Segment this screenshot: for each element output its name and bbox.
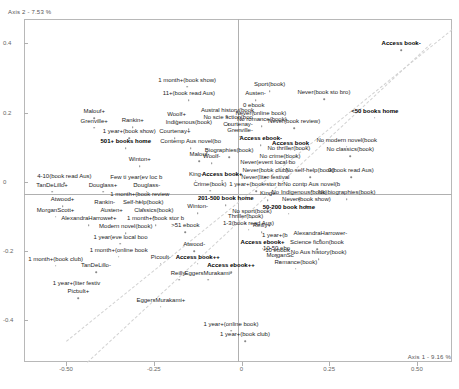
data-point-marker bbox=[120, 243, 122, 245]
data-point-label: Austen+ bbox=[101, 207, 123, 213]
data-point-marker bbox=[207, 279, 209, 281]
y-tick-label: 0 bbox=[3, 179, 6, 185]
y-tick-mark bbox=[24, 113, 28, 114]
data-point-label: MorganScott+ bbox=[37, 207, 75, 213]
data-point-marker bbox=[88, 224, 90, 226]
data-point-marker bbox=[55, 265, 57, 267]
data-point-label: No biographies(book) bbox=[318, 189, 375, 195]
data-point-label: Never(book sto bro) bbox=[297, 89, 350, 95]
data-point-label: 1 month+(book stor b bbox=[127, 215, 184, 221]
x-tick-label: -0.25 bbox=[147, 366, 161, 372]
data-point-label: Austen- bbox=[245, 90, 266, 96]
data-point-marker bbox=[276, 257, 278, 259]
data-point-label: Douglass+ bbox=[89, 182, 118, 188]
data-point-marker bbox=[261, 126, 263, 128]
data-point-label: Crime(book) bbox=[193, 181, 226, 187]
data-point-label: Woolf+ bbox=[167, 111, 186, 117]
data-point-label: >51 ebook bbox=[171, 222, 199, 228]
data-point-label: EggersMurakami- bbox=[184, 270, 231, 276]
data-point-label: 1 year+(book club) bbox=[220, 331, 270, 337]
data-point-label: 1 month+(book show) bbox=[158, 77, 216, 83]
data-point-label: Douglass- bbox=[133, 182, 160, 188]
data-point-marker bbox=[155, 224, 157, 226]
data-point-label: Atwood- bbox=[183, 241, 205, 247]
data-point-label: Access book++ bbox=[176, 254, 220, 260]
data-point-label: 1 year+(book stor br bbox=[229, 181, 283, 187]
data-point-marker bbox=[295, 268, 297, 270]
data-point-label: Atwood+ bbox=[51, 196, 75, 202]
data-point-marker bbox=[346, 198, 348, 200]
data-point-marker bbox=[293, 127, 295, 129]
data-point-marker bbox=[225, 204, 227, 206]
data-point-label: 1 month+(online book bbox=[90, 247, 148, 253]
y-tick-label: 0.4 bbox=[3, 40, 11, 46]
data-point-label: Thriller(book) bbox=[228, 213, 263, 219]
y-tick-label: -0.2 bbox=[3, 248, 13, 254]
y-tick-mark bbox=[24, 182, 28, 183]
y-tick-mark bbox=[24, 43, 28, 44]
data-point-label: Rankin+ bbox=[122, 117, 144, 123]
data-point-marker bbox=[178, 279, 180, 281]
data-point-label: Winton+ bbox=[129, 156, 151, 162]
data-point-label: 1 year+(b bbox=[262, 232, 288, 238]
data-point-label: Picoult- bbox=[151, 254, 171, 260]
data-point-label: Indigenous(book) bbox=[166, 119, 212, 125]
x-tick-label: -0.50 bbox=[59, 366, 73, 372]
data-point-label: AlexandraHarrower- bbox=[294, 230, 348, 236]
data-point-label: No crime(book) bbox=[260, 153, 301, 159]
data-point-marker bbox=[197, 263, 199, 265]
data-point-label: EggersMurakami+ bbox=[136, 297, 185, 303]
data-point-label: Never(liter festival bbox=[241, 174, 289, 180]
data-point-label: 201-500 book home bbox=[198, 195, 254, 201]
data-point-label: Never(event local bo bbox=[240, 159, 295, 165]
data-point-marker bbox=[267, 199, 269, 201]
data-point-label: Winton- bbox=[187, 203, 208, 209]
data-point-marker bbox=[186, 86, 188, 88]
vertical-axis-line bbox=[238, 19, 239, 362]
data-point-label: 50-200 book home bbox=[263, 204, 315, 210]
data-point-label: Rankin- bbox=[94, 199, 115, 205]
data-point-label: Romance(book) bbox=[275, 259, 318, 265]
data-point-marker bbox=[199, 160, 201, 162]
data-point-marker bbox=[160, 263, 162, 265]
data-point-marker bbox=[209, 190, 211, 192]
data-point-label: No modern novel(book bbox=[316, 137, 377, 143]
data-point-label: Science fiction(book bbox=[290, 239, 344, 245]
x-tick-label: 0.25 bbox=[323, 366, 335, 372]
data-point-label: Never(online book) bbox=[235, 110, 286, 116]
data-point-label: No self-help(book) bbox=[285, 167, 334, 173]
data-point-marker bbox=[228, 156, 230, 158]
data-point-marker bbox=[374, 117, 376, 119]
data-point-label: Access book- bbox=[382, 40, 421, 46]
data-point-marker bbox=[118, 256, 120, 258]
data-point-label: Access ebook++ bbox=[207, 262, 254, 268]
data-point-marker bbox=[193, 250, 195, 252]
data-point-marker bbox=[323, 99, 325, 101]
data-point-label: Modern novel(book) bbox=[99, 223, 152, 229]
data-point-marker bbox=[55, 216, 57, 218]
data-point-label: Sport(book) bbox=[254, 81, 285, 87]
data-point-label: Never(book show) bbox=[282, 196, 331, 202]
data-point-label: 1 year+(liter festiv bbox=[53, 280, 101, 286]
data-point-marker bbox=[318, 258, 320, 260]
data-point-label: 501+ books home bbox=[100, 138, 151, 144]
data-point-marker bbox=[160, 306, 162, 308]
data-point-label: -10 ebook bbox=[263, 247, 290, 253]
data-point-label: King- bbox=[189, 171, 203, 177]
data-point-marker bbox=[78, 297, 80, 299]
data-point-label: 1 year+(online book) bbox=[204, 321, 259, 327]
y-tick-label: 0.2 bbox=[3, 110, 11, 116]
data-point-label: Woolf- bbox=[203, 153, 220, 159]
data-point-marker bbox=[95, 271, 97, 273]
data-point-marker bbox=[125, 147, 127, 149]
correspondence-analysis-plot: Axis 2 - 7.53 % Axis 1 - 9.16 % -0.50-0.… bbox=[0, 0, 459, 389]
data-point-marker bbox=[349, 155, 351, 157]
data-point-label: 11+(book read Aus) bbox=[163, 90, 215, 96]
data-point-label: <50 books home bbox=[351, 108, 398, 114]
data-point-label: 1 year(eve local boo bbox=[93, 234, 147, 240]
data-point-label: No contp Aus novel(b bbox=[283, 181, 340, 187]
data-point-marker bbox=[244, 340, 246, 342]
data-point-label: Classics(book) bbox=[134, 207, 173, 213]
data-point-label: Access book+ bbox=[202, 171, 243, 177]
data-point-marker bbox=[139, 165, 141, 167]
